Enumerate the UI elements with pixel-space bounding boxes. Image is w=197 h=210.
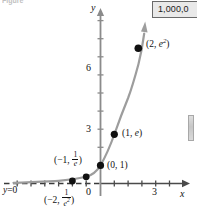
point-label-neg1: (−1, 1e) xyxy=(54,151,82,168)
figure-container: Figure 1,000,0 xyxy=(0,0,197,210)
point-label-neg2: (−2, 1e2) xyxy=(44,189,74,207)
data-point-two xyxy=(135,45,143,53)
asymptote-label-value: 0 xyxy=(13,185,18,195)
asymptote-label: y=0 xyxy=(3,185,17,195)
x-axis-arrow xyxy=(182,180,190,187)
x-tick-label-3: 3 xyxy=(152,186,157,197)
y-axis-label: y xyxy=(91,2,95,13)
data-point-zero xyxy=(97,162,104,169)
point-neg2-x: −2 xyxy=(47,195,57,205)
y-axis-arrow xyxy=(97,8,104,16)
point-two-y-exp: 2 xyxy=(163,37,166,44)
point-label-one: (1, e) xyxy=(122,128,142,138)
y-tick-label-6: 6 xyxy=(86,62,91,73)
data-point-neg2 xyxy=(69,178,76,185)
point-one-x: 1 xyxy=(125,128,130,138)
y-tick-label-3: 3 xyxy=(86,123,91,134)
frac2-den-exp: 2 xyxy=(67,197,70,203)
curve-arrow xyxy=(141,22,148,33)
data-point-neg1 xyxy=(83,173,90,180)
fraction-one-over-e: 1e xyxy=(72,151,78,168)
point-one-y: e xyxy=(135,128,139,138)
x-axis-label: x xyxy=(180,188,184,199)
point-label-zero: (0, 1) xyxy=(107,160,128,170)
point-label-two: (2, e2) xyxy=(146,37,169,49)
frac-denominator: e xyxy=(72,160,78,168)
fraction-one-over-e-squared: 1e2 xyxy=(62,189,70,207)
point-neg1-x: −1 xyxy=(57,155,67,165)
frac2-denominator: e2 xyxy=(62,198,70,208)
point-two-x: 2 xyxy=(149,39,154,49)
exponential-graph xyxy=(0,0,197,210)
x-tick-label-0: 0 xyxy=(86,186,91,197)
data-point-one xyxy=(111,131,118,138)
